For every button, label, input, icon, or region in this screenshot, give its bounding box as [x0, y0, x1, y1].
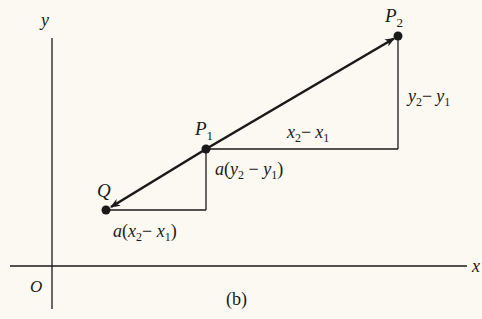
label-p1: P1 — [194, 118, 213, 143]
label-dx-big: x2−x1 — [286, 122, 329, 145]
point-q — [102, 206, 111, 215]
label-dy-small: a(y2 − y1) — [215, 159, 283, 182]
vector-diagram: y x O P2 P1 Q y2−y1 x2−x1 a(y2 − y1) a(x… — [0, 0, 482, 319]
origin-label: O — [30, 277, 42, 296]
vector-p1-q — [111, 149, 206, 207]
label-p2: P2 — [384, 5, 403, 30]
y-axis-label: y — [39, 10, 49, 30]
label-q: Q — [97, 180, 111, 201]
point-p2 — [394, 32, 403, 41]
label-dx-small: a(x2− x1) — [113, 221, 177, 244]
x-axis-label: x — [471, 256, 480, 276]
label-dy-big: y2−y1 — [406, 86, 450, 109]
figure-caption: (b) — [226, 289, 247, 310]
point-p1 — [202, 145, 211, 154]
